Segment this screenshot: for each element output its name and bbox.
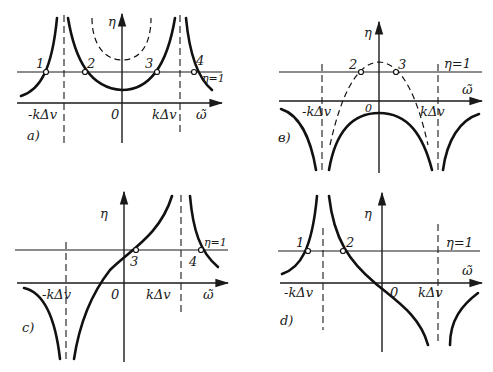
point-2-label: 2 (348, 57, 357, 72)
eta-one-label: η=1 (446, 235, 473, 250)
panel-a: 1 2 3 4 η η=1 0 -kΔv kΔv ω̃ a) (17, 14, 225, 143)
neg-k-dv-label: -kΔv (284, 285, 314, 300)
point-2-label: 2 (86, 56, 95, 71)
panel-caption: a) (27, 128, 40, 143)
x-axis-label: ω̃ (203, 287, 214, 302)
eta-one-label: η=1 (444, 56, 471, 71)
origin-label: 0 (111, 287, 119, 302)
point-2-label: 2 (345, 235, 354, 250)
neg-k-dv-label: -kΔv (28, 107, 58, 122)
y-axis-label: η (364, 206, 372, 221)
curve-middle-branch (74, 196, 172, 359)
dispersion-diagrams: 1 2 3 4 η η=1 0 -kΔv kΔv ω̃ a) 2 3 η η=1… (0, 0, 493, 372)
x-axis-label: ω̃ (462, 263, 473, 278)
panel-d: 1 2 η η=1 0 -kΔv kΔv ω̃ d) (278, 193, 482, 352)
y-axis-label: η (100, 206, 108, 221)
point-4-label: 4 (188, 254, 197, 269)
panel-caption: в) (278, 130, 291, 145)
curve-middle-branch (329, 196, 428, 345)
point-1-label: 1 (296, 235, 304, 250)
point-3-label: 3 (398, 57, 406, 72)
panel-caption: d) (280, 313, 293, 328)
k-dv-label: kΔv (152, 107, 177, 122)
origin-label: 0 (111, 107, 119, 122)
point-2 (359, 70, 364, 75)
neg-k-dv-label: -kΔv (302, 104, 332, 119)
eta-one-label: η=1 (202, 72, 225, 85)
point-4 (192, 70, 197, 75)
point-4-label: 4 (195, 53, 204, 68)
point-1 (306, 249, 311, 254)
eta-one-label: η=1 (204, 236, 227, 249)
point-3-label: 3 (145, 56, 153, 71)
k-dv-label: kΔv (420, 104, 445, 119)
panel-caption: c) (22, 320, 34, 335)
curve-right-branch (443, 114, 479, 170)
curve-right-branch (450, 293, 478, 345)
point-2 (341, 249, 346, 254)
panel-b: 2 3 η η=1 0 -kΔv kΔv ω̃ в) (278, 22, 482, 173)
origin-label: 0 (365, 102, 372, 115)
point-3-label: 3 (130, 254, 138, 269)
k-dv-label: kΔv (418, 285, 443, 300)
origin-label: 0 (390, 285, 398, 300)
point-3 (134, 248, 139, 253)
point-3 (155, 70, 160, 75)
curve-middle-branch (329, 113, 432, 170)
point-1-label: 1 (36, 56, 44, 71)
x-axis-label: ω̃ (462, 82, 473, 97)
point-4 (199, 248, 204, 253)
y-axis-label: η (108, 14, 116, 29)
y-axis-label: η (364, 25, 372, 40)
panel-c: 3 4 η η=1 0 -kΔv kΔv ω̃ c) (15, 192, 228, 362)
neg-k-dv-label: -kΔv (42, 287, 72, 302)
x-axis-label: ω̃ (196, 107, 207, 122)
k-dv-label: kΔv (146, 287, 171, 302)
